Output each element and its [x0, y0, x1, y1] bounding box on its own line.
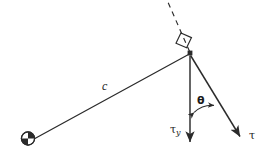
tau-label: τ — [249, 130, 255, 141]
tau-y-subscript: y — [176, 128, 181, 137]
diagram-canvas — [0, 0, 273, 161]
angle-label: θ — [197, 95, 205, 106]
vertex-dot — [188, 51, 193, 56]
rod-line — [34, 54, 189, 139]
torque-diagram: c θ τy τ — [0, 0, 273, 161]
center-of-mass-icon — [21, 132, 35, 145]
tau-y-label: τy — [170, 124, 181, 137]
rod-length-label: c — [102, 80, 107, 92]
right-angle-square-icon — [176, 33, 192, 48]
